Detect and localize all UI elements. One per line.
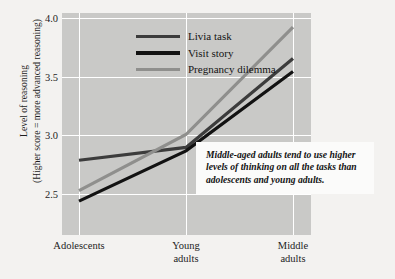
y-axis-title-line1: Level of reasoning — [17, 0, 30, 206]
legend: Livia task Visit story Pregnancy dilemma — [136, 31, 276, 75]
x-tick-label-middle-adults-line1: Middle — [238, 240, 348, 253]
annotation-callout: Middle-aged adults tend to use higher le… — [196, 142, 374, 194]
legend-label-livia-task: Livia task — [188, 31, 232, 42]
y-tick-label-4.0: 4.0 — [0, 13, 58, 24]
y-tick-label-2.5: 2.5 — [0, 189, 58, 200]
legend-label-visit-story: Visit story — [188, 48, 233, 59]
legend-item-visit-story: Visit story — [136, 48, 276, 59]
y-axis-title-line2: (Higher score = more advanced reasoning) — [30, 0, 43, 206]
plot-area: Livia task Visit story Pregnancy dilemma — [62, 13, 311, 235]
figure: Level of reasoning (Higher score = more … — [0, 0, 395, 279]
legend-swatch-visit-story — [136, 51, 180, 54]
x-tick-label-young-adults: Young adults — [131, 240, 241, 265]
y-tick-label-3.0: 3.0 — [0, 130, 58, 141]
x-tick-label-young-adults-line1: Young — [131, 240, 241, 253]
legend-swatch-livia-task — [136, 35, 180, 38]
x-tick-label-middle-adults: Middle adults — [238, 240, 348, 265]
legend-item-pregnancy-dilemma: Pregnancy dilemma — [136, 64, 276, 75]
x-tick-label-middle-adults-line2: adults — [238, 253, 348, 266]
x-tick-label-young-adults-line2: adults — [131, 253, 241, 266]
legend-label-pregnancy-dilemma: Pregnancy dilemma — [188, 64, 276, 75]
legend-swatch-pregnancy-dilemma — [136, 68, 180, 71]
x-tick-label-adolescents: Adolescents — [24, 240, 134, 253]
y-axis-title: Level of reasoning (Higher score = more … — [17, 0, 43, 206]
legend-item-livia-task: Livia task — [136, 31, 276, 42]
y-tick-label-3.5: 3.5 — [0, 72, 58, 83]
x-tick-label-adolescents-line1: Adolescents — [24, 240, 134, 253]
